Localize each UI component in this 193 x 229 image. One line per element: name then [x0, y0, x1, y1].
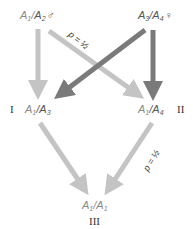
arrow-bottom-left	[40, 123, 83, 187]
label-roman-i: I	[10, 104, 14, 115]
allele-b: A	[152, 103, 159, 115]
node-bottom: A1/A1	[82, 200, 108, 212]
female-icon: ♀	[165, 9, 173, 21]
arrow-cross-light	[49, 31, 136, 93]
node-mid-left: A1/A3	[25, 104, 51, 116]
allele-b: A	[39, 103, 46, 115]
arrow-bottom-right	[110, 123, 152, 187]
label-roman-ii: II	[177, 104, 184, 115]
node-top-right: A3/A4♀	[138, 10, 173, 22]
allele-b-sub: 4	[160, 109, 164, 116]
allele-b-sub: 2	[42, 15, 46, 22]
node-mid-right: A1/A4	[138, 104, 164, 116]
allele-b: A	[152, 9, 159, 21]
allele-b-sub: 1	[104, 205, 108, 212]
allele-b-sub: 4	[160, 15, 164, 22]
allele-b-sub: 3	[47, 109, 51, 116]
node-top-left: A1/A2♂	[20, 10, 55, 22]
label-roman-iii: III	[89, 216, 100, 227]
male-icon: ♂	[47, 9, 55, 21]
allele-b: A	[96, 199, 103, 211]
allele-b: A	[34, 9, 41, 21]
